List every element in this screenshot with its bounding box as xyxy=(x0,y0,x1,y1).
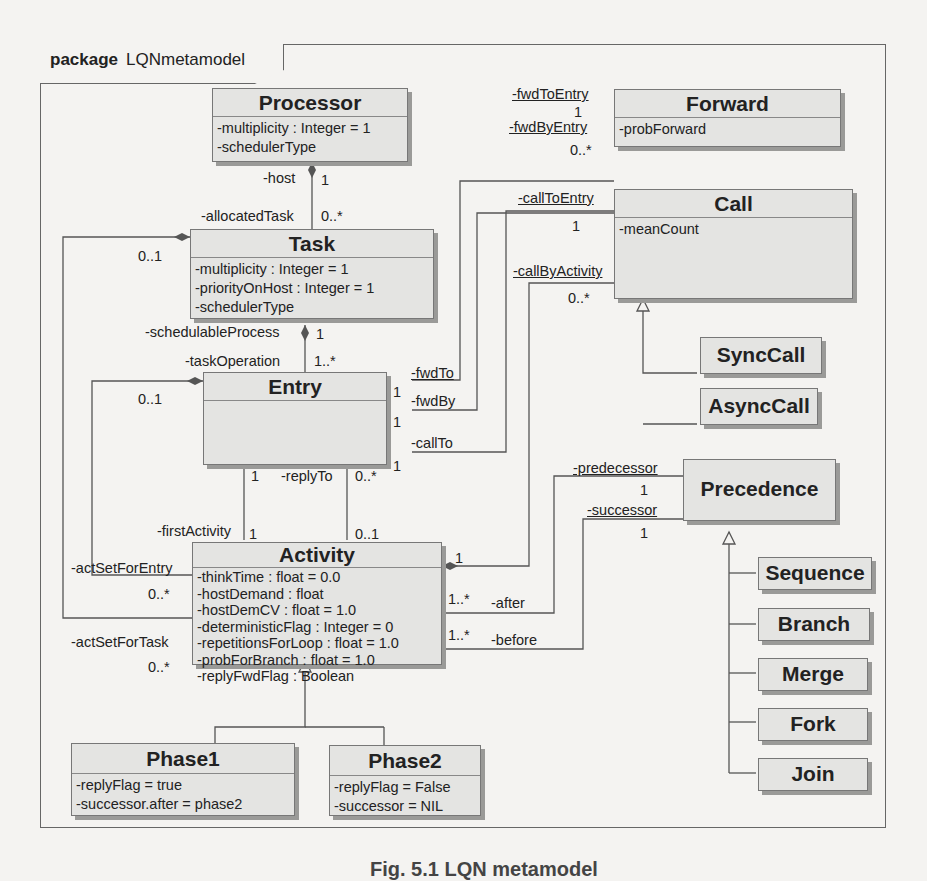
role-after: -after xyxy=(491,595,525,611)
role-taskoperation: -taskOperation xyxy=(185,353,280,369)
role-fwdtoentry: -fwdToEntry xyxy=(512,86,589,102)
role-predecessor: -predecessor xyxy=(573,460,658,476)
role-calltoentry: -callToEntry xyxy=(518,190,594,206)
class-task: Task -multiplicity : Integer = 1-priorit… xyxy=(190,229,434,319)
role-firstactivity: -firstActivity xyxy=(157,523,231,539)
mult-replyto-top-right: 0..* xyxy=(355,468,377,484)
class-call: Call -meanCount xyxy=(614,189,853,299)
mult-calltoentry: 1 xyxy=(572,218,580,234)
mult-after: 1..* xyxy=(448,591,470,607)
mult-entry-left: 0..1 xyxy=(138,391,162,407)
class-forward: Forward -probForward xyxy=(614,89,841,147)
class-fork: Fork xyxy=(758,708,868,741)
class-precedence: Precedence xyxy=(683,459,836,521)
class-join: Join xyxy=(758,758,868,791)
mult-replyto-bottom: 0..1 xyxy=(355,526,379,542)
role-callto: -callTo xyxy=(411,435,453,451)
role-successor: -successor xyxy=(587,502,657,518)
class-entry: Entry xyxy=(203,372,387,465)
class-synccall: SyncCall xyxy=(700,337,822,374)
role-fwdto: -fwdTo xyxy=(411,365,454,381)
mult-fwdto: 1 xyxy=(393,384,401,400)
mult-allocatedtask: 0..* xyxy=(321,208,343,224)
mult-task-left: 0..1 xyxy=(138,248,162,264)
role-replyto: -replyTo xyxy=(281,468,333,484)
mult-fwdby: 1 xyxy=(393,414,401,430)
class-phase2: Phase2 -replyFlag = False-successor = NI… xyxy=(329,745,481,816)
figure-caption: Fig. 5.1 LQN metamodel xyxy=(370,858,598,881)
mult-before: 1..* xyxy=(448,627,470,643)
mult-callto: 1 xyxy=(393,458,401,474)
mult-actsetfortask: 0..* xyxy=(148,659,170,675)
class-processor: Processor -multiplicity : Integer = 1-sc… xyxy=(212,88,408,162)
mult-firstactivity: 1 xyxy=(249,526,257,542)
class-sequence: Sequence xyxy=(758,557,872,590)
role-actsetforentry: -actSetForEntry xyxy=(71,560,173,576)
mult-host: 1 xyxy=(321,172,329,188)
role-callbyactivity: -callByActivity xyxy=(513,263,602,279)
role-allocatedtask: -allocatedTask xyxy=(201,208,294,224)
class-merge: Merge xyxy=(758,658,868,691)
mult-fwdbyentry: 0..* xyxy=(570,142,592,158)
role-schedulableprocess: -schedulableProcess xyxy=(145,324,280,340)
mult-replyto-top-left: 1 xyxy=(251,468,259,484)
mult-taskoperation: 1..* xyxy=(314,353,336,369)
mult-callbyactivity: 0..* xyxy=(568,290,590,306)
class-phase1: Phase1 -replyFlag = true-successor.after… xyxy=(71,743,295,816)
mult-successor: 1 xyxy=(640,525,648,541)
role-before: -before xyxy=(491,632,537,648)
mult-activity-call: 1 xyxy=(455,550,463,566)
mult-predecessor: 1 xyxy=(640,482,648,498)
mult-schedulableprocess: 1 xyxy=(316,326,324,342)
class-branch: Branch xyxy=(758,608,870,641)
mult-fwdtoentry: 1 xyxy=(574,104,582,120)
role-fwdbyentry: -fwdByEntry xyxy=(509,119,587,135)
class-activity: Activity -thinkTime : float = 0.0-hostDe… xyxy=(192,542,442,665)
role-host: -host xyxy=(263,170,295,186)
role-fwdby: -fwdBy xyxy=(411,393,455,409)
mult-actsetforentry: 0..* xyxy=(148,586,170,602)
role-actsetfortask: -actSetForTask xyxy=(71,634,169,650)
class-asynccall: AsyncCall xyxy=(700,388,818,425)
